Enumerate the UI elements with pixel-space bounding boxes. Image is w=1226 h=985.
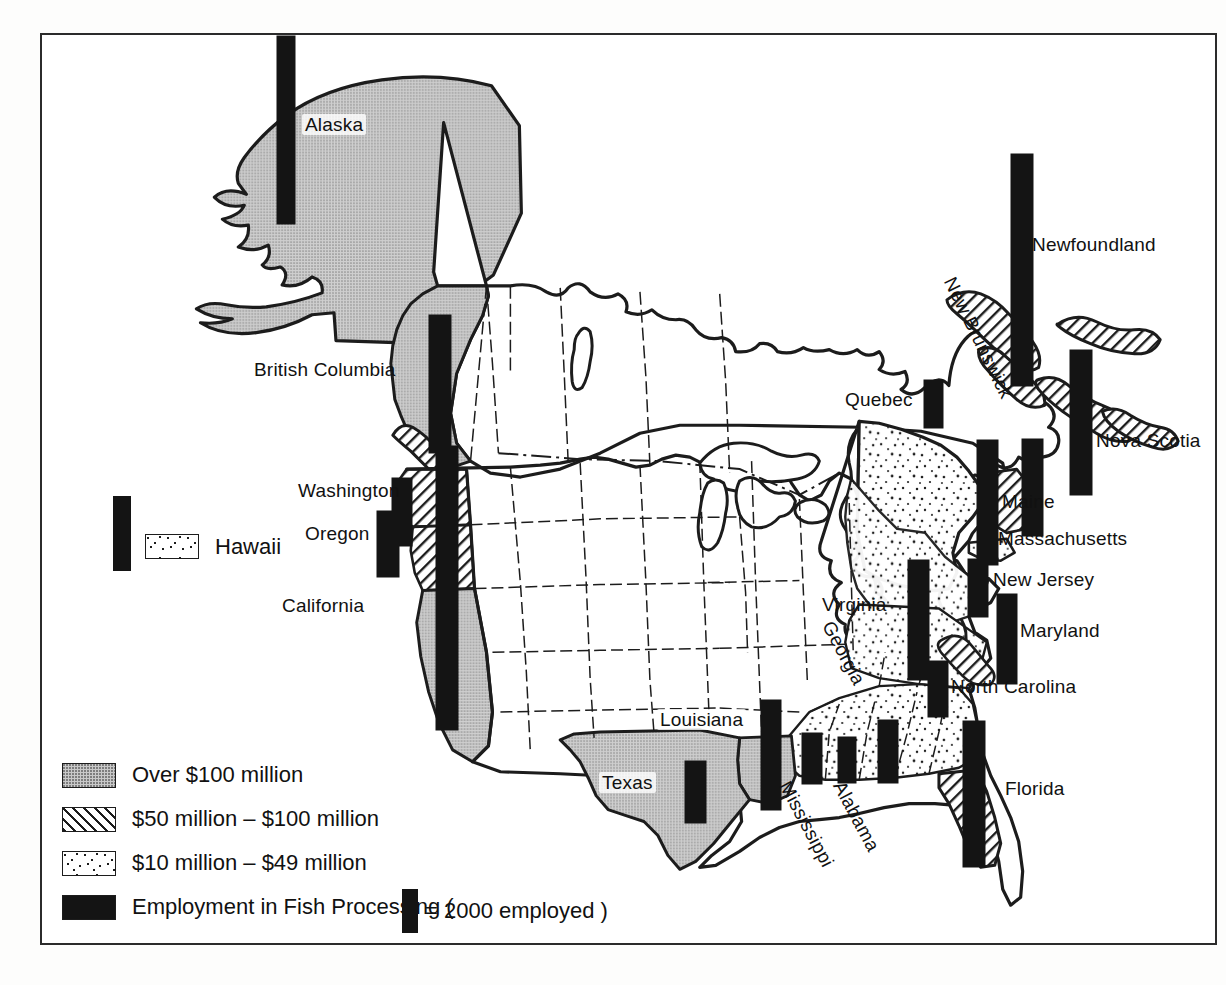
hawaii-employment-bar	[113, 496, 131, 571]
hawaii-label: Hawaii	[215, 534, 281, 560]
map-label-maryland: Maryland	[1020, 621, 1100, 640]
map-label-florida: Florida	[1005, 779, 1064, 798]
map-label-quebec: Quebec	[845, 390, 913, 409]
map-label-virginia: Virginia	[822, 595, 887, 614]
map-label-british-columbia: British Columbia	[254, 360, 396, 379]
employment-bar-mississippi	[802, 733, 822, 784]
map-label-oregon: Oregon	[305, 524, 370, 543]
employment-bar-maryland	[997, 594, 1017, 684]
map-label-alaska: Alaska	[302, 114, 366, 135]
legend-employment-key: = 2000 employed )	[395, 889, 608, 933]
employment-bar-nova-scotia	[1070, 350, 1092, 495]
employment-bar-quebec	[924, 380, 943, 428]
province-newfoundland	[1057, 317, 1160, 354]
employment-bar-georgia	[878, 720, 898, 783]
employment-bar-alabama	[838, 737, 856, 783]
hawaii-value-swatch	[145, 534, 199, 559]
legend-row-10-to-49-million: $10 million – $49 million	[62, 841, 682, 885]
map-label-north-carolina: North Carolina	[951, 677, 1076, 696]
map-label-newfoundland: Newfoundland	[1032, 235, 1156, 254]
employment-bar-alaska	[277, 36, 295, 224]
map-label-washington: Washington	[298, 481, 400, 500]
employment-bar-oregon	[377, 511, 399, 577]
legend-row-50-to-100-million: $50 million – $100 million	[62, 797, 682, 841]
map-label-new-jersey: New Jersey	[993, 570, 1094, 589]
map-label-maine: Maine	[1002, 492, 1055, 511]
map-label-nova-scotia: Nova Scotia	[1096, 431, 1201, 450]
map-label-louisiana: Louisiana	[657, 709, 746, 730]
map-legend: Over $100 million $50 million – $100 mil…	[62, 753, 682, 929]
map-page: AlaskaBritish ColumbiaWashingtonOregonCa…	[0, 0, 1226, 985]
employment-bar-texas	[685, 761, 706, 823]
employment-key-bar	[402, 889, 418, 933]
map-stage: AlaskaBritish ColumbiaWashingtonOregonCa…	[42, 35, 1215, 943]
legend-label-50-to-100-million: $50 million – $100 million	[132, 806, 379, 832]
legend-swatch-employment	[62, 895, 116, 920]
legend-employment-key-value: = 2000 employed )	[425, 898, 608, 924]
legend-row-employment: Employment in Fish Processing ( = 2000 e…	[62, 885, 682, 929]
legend-label-10-to-49-million: $10 million – $49 million	[132, 850, 367, 876]
employment-bar-massachusetts	[977, 440, 998, 565]
legend-swatch-over-100-million	[62, 763, 116, 788]
employment-bar-virginia	[908, 560, 929, 680]
employment-bar-north-carolina	[928, 661, 948, 717]
lake-huron-erie	[736, 477, 795, 527]
employment-bar-florida	[963, 721, 985, 867]
hawaii-inset: Hawaii	[77, 490, 307, 600]
legend-swatch-10-to-49-million	[62, 851, 116, 876]
legend-row-over-100-million: Over $100 million	[62, 753, 682, 797]
employment-bar-california	[436, 446, 458, 730]
legend-label-over-100-million: Over $100 million	[132, 762, 303, 788]
employment-bar-british-columbia	[429, 315, 451, 453]
employment-bar-maine	[1022, 439, 1043, 536]
employment-bar-newfoundland	[1011, 154, 1033, 386]
map-frame: AlaskaBritish ColumbiaWashingtonOregonCa…	[40, 33, 1217, 945]
legend-swatch-50-to-100-million	[62, 807, 116, 832]
employment-bar-new-jersey	[968, 559, 988, 617]
map-label-massachusetts: Massachusetts	[998, 529, 1127, 548]
